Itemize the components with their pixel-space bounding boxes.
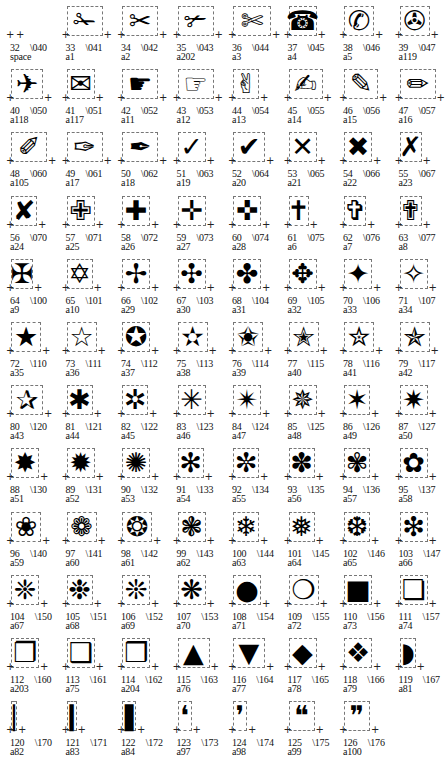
character-cell: ❝ + + 125 \175 a99 xyxy=(284,697,340,760)
character-cell: ✫ + + 75 \113 a38 xyxy=(173,318,229,381)
dingbat-glyph-icon: ✵ xyxy=(291,385,314,415)
glyph-bounding-box: ✽ xyxy=(289,448,315,478)
advance-width-marker: + xyxy=(98,536,106,546)
glyph-name: a52 xyxy=(66,494,103,503)
glyph-name: a14 xyxy=(288,115,325,124)
origin-marker: + xyxy=(284,156,292,166)
glyph-name: a32 xyxy=(288,305,325,314)
dingbat-glyph-icon: ✕ xyxy=(291,132,314,162)
character-cell: ✴ + + 84 \124 a47 xyxy=(228,381,284,444)
character-label: 59 \073 a27 xyxy=(177,233,214,251)
dingbat-glyph-icon: ✥ xyxy=(291,259,314,289)
character-cell: ✶ + + 86 \126 a49 xyxy=(339,381,395,444)
advance-width-marker: + xyxy=(205,472,213,482)
dingbat-glyph-icon: ✃ xyxy=(184,6,207,36)
character-label: 61 \075 a6 xyxy=(288,233,325,251)
octal-code: \053 xyxy=(196,106,213,115)
glyph-name: a76 xyxy=(177,684,218,693)
character-label: 50 \062 a18 xyxy=(121,169,158,187)
glyph-name: a13 xyxy=(232,115,269,124)
dingbat-glyph-icon: ✄ xyxy=(241,6,264,36)
character-cell: ✷ + + 87 \127 a50 xyxy=(395,381,446,444)
character-cell: ✏ + + 47 \057 a16 xyxy=(395,65,446,128)
octal-code: \134 xyxy=(252,485,269,494)
glyph-name: a204 xyxy=(121,684,162,693)
glyph-bounding-box: ✣ xyxy=(178,259,206,289)
character-label: 55 \067 a23 xyxy=(399,169,436,187)
dingbat-glyph-icon: ✯ xyxy=(403,322,426,352)
glyph-name: a33 xyxy=(343,305,380,314)
octal-code: \045 xyxy=(307,43,324,52)
glyph-name: a55 xyxy=(232,494,269,503)
dingbat-glyph-icon: ✁ xyxy=(73,6,96,36)
origin-marker: + xyxy=(173,599,181,609)
glyph-bounding-box: ✡ xyxy=(67,259,93,289)
advance-width-marker: + xyxy=(429,409,437,419)
advance-width-marker: + xyxy=(16,30,24,40)
origin-marker: + xyxy=(6,93,14,103)
character-label: 43 \053 a12 xyxy=(177,106,214,124)
glyph-bounding-box: ★ xyxy=(11,322,41,352)
origin-marker: + xyxy=(6,156,14,166)
dingbat-glyph-icon: ✎ xyxy=(350,69,373,99)
dingbat-glyph-icon: ❑ xyxy=(68,638,92,668)
character-label: 96 \140 a59 xyxy=(10,549,47,567)
origin-marker: + xyxy=(117,472,125,482)
character-label: 85 \125 a48 xyxy=(288,422,325,440)
glyph-bounding-box: ✼ xyxy=(233,448,259,478)
character-cell: ▲ + + 115 \163 a76 xyxy=(173,634,229,697)
dingbat-glyph-icon: ✷ xyxy=(402,385,425,415)
character-label: 60 \074 a28 xyxy=(232,233,269,251)
glyph-bounding-box: ❅ xyxy=(289,512,315,542)
character-label: 41 \051 a117 xyxy=(66,106,103,124)
character-label: 83 \123 a46 xyxy=(177,422,214,440)
character-cell: ❇ + + 103 \147 a66 xyxy=(395,508,446,571)
advance-width-marker: + xyxy=(373,599,381,609)
character-cell: ❜ + + 124 \174 a98 xyxy=(228,697,284,760)
origin-marker: + xyxy=(228,346,236,356)
glyph-name: a77 xyxy=(232,684,273,693)
origin-marker: + xyxy=(173,156,181,166)
character-label: 53 \065 a21 xyxy=(288,169,325,187)
advance-width-marker: + xyxy=(316,725,324,735)
origin-marker: + xyxy=(284,93,292,103)
character-cell: ✖ + + 54 \066 a22 xyxy=(339,128,395,191)
glyph-name: a12 xyxy=(177,115,214,124)
character-cell: ✵ + + 85 \125 a48 xyxy=(284,381,340,444)
character-cell: ❈ + + 104 \150 a67 xyxy=(6,571,62,634)
octal-code: \107 xyxy=(418,296,435,305)
advance-width-marker: + xyxy=(151,662,159,672)
glyph-name: a4 xyxy=(288,52,325,61)
glyph-name: a202 xyxy=(177,52,214,61)
octal-code: \132 xyxy=(141,485,158,494)
glyph-bounding-box: ✁ xyxy=(67,6,103,36)
dingbat-glyph-icon: ✛ xyxy=(180,196,203,226)
glyph-name: a15 xyxy=(343,115,380,124)
dingbat-glyph-icon: ✾ xyxy=(346,448,369,478)
octal-code: \075 xyxy=(307,233,324,242)
origin-marker: + xyxy=(395,599,403,609)
character-label: 34 \042 a2 xyxy=(121,43,158,61)
glyph-bounding-box: ✮ xyxy=(344,322,374,352)
dingbat-glyph-icon: ✬ xyxy=(237,322,260,352)
character-label: 80 \120 a43 xyxy=(10,422,47,440)
octal-code: \115 xyxy=(307,359,324,368)
origin-marker: + xyxy=(339,93,347,103)
advance-width-marker: + xyxy=(371,472,379,482)
glyph-name: a23 xyxy=(399,178,436,187)
glyph-bounding-box: ☆ xyxy=(67,322,97,352)
character-label: 35 \043 a202 xyxy=(177,43,214,61)
glyph-name: a20 xyxy=(232,178,269,187)
origin-marker: + xyxy=(6,30,14,40)
origin-marker: + xyxy=(62,662,70,672)
octal-code: \062 xyxy=(141,169,158,178)
dingbat-glyph-icon: ❏ xyxy=(401,575,425,605)
origin-marker: + xyxy=(173,725,181,735)
glyph-name: a81 xyxy=(399,684,440,693)
origin-marker: + xyxy=(339,283,347,293)
origin-marker: + xyxy=(6,283,14,293)
octal-code: \151 xyxy=(90,612,107,621)
character-label: 75 \113 a38 xyxy=(177,359,214,377)
character-cell: ✌ + + 44 \054 a13 xyxy=(228,65,284,128)
glyph-bounding-box: ✭ xyxy=(289,322,319,352)
